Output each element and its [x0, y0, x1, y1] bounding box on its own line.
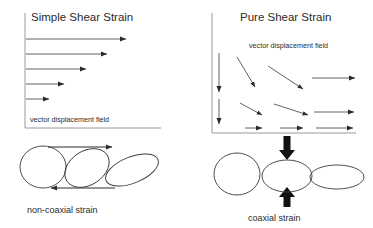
diagram-canvas: Simple Shear Strain vector displacement … [0, 0, 373, 228]
left-ellipse-sheared-1 [58, 141, 117, 196]
right-panel-title: Pure Shear Strain [240, 11, 331, 23]
left-field-label: vector displacement field [30, 115, 109, 124]
right-strain-ellipses [214, 153, 364, 195]
right-axis-lines [212, 13, 356, 133]
left-ellipse-sheared-2 [101, 147, 163, 192]
shear-strain-diagram: Simple Shear Strain vector displacement … [0, 0, 373, 228]
left-strain-ellipses [20, 141, 163, 196]
right-ellipse-flattened-2 [310, 165, 364, 189]
right-vector-2-2 [274, 104, 308, 115]
bottom-compression-arrow [279, 187, 295, 207]
left-vector-field [26, 39, 126, 99]
right-vector-2-1 [240, 103, 262, 115]
right-vector-row-1 [237, 57, 355, 89]
top-compression-arrow [279, 136, 295, 160]
panel-pure-shear: Pure Shear Strain vector displacement fi… [212, 11, 364, 223]
left-panel-caption: non-coaxial strain [27, 205, 98, 215]
right-field-label: vector displacement field [249, 41, 328, 50]
panel-simple-shear: Simple Shear Strain vector displacement … [20, 11, 163, 215]
right-panel-caption: coaxial strain [248, 213, 301, 223]
left-axis-lines [25, 13, 161, 128]
right-vector-1-1 [237, 57, 255, 87]
left-circle-undeformed [20, 146, 66, 188]
left-panel-title: Simple Shear Strain [31, 11, 133, 23]
right-vector-row-2 [240, 103, 354, 115]
right-vector-1-2 [268, 66, 303, 89]
right-circle-undeformed [214, 153, 260, 195]
